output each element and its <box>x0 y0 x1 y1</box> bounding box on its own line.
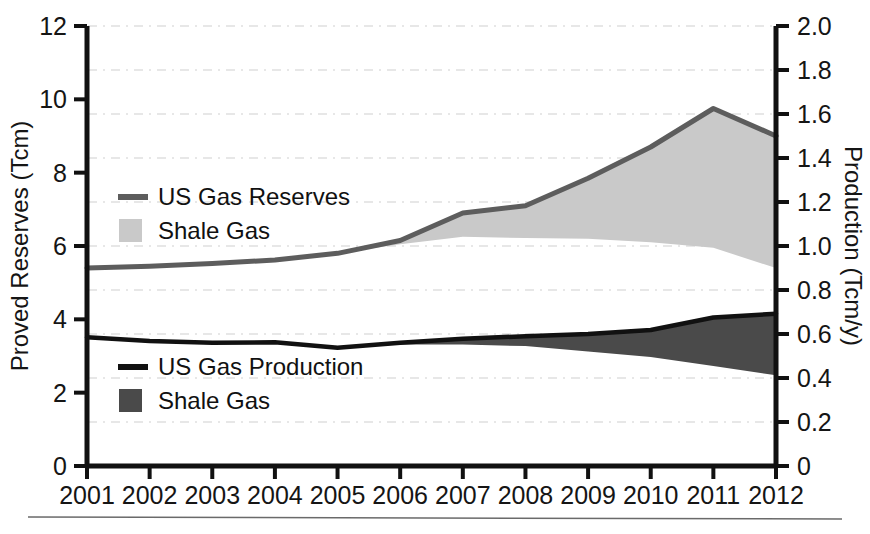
y-axis-right-tick-label: 0.6 <box>797 320 832 348</box>
y-axis-right-tick-label: 1.8 <box>797 56 832 84</box>
y-axis-left-tick-label: 0 <box>53 452 67 480</box>
y-axis-right-title: Production (Tcm/y) <box>840 146 867 346</box>
y-axis-right-tick-label: 0.8 <box>797 276 832 304</box>
x-axis-tick-label: 2005 <box>310 481 366 509</box>
legend-item-label: US Gas Reserves <box>158 183 350 210</box>
x-axis-tick-label: 2011 <box>686 481 740 509</box>
chart-figure: 1210864202.01.81.61.41.21.00.80.60.40.20… <box>0 0 870 534</box>
y-axis-right-tick-label: 1.6 <box>797 100 832 128</box>
x-axis-tick-label: 2006 <box>372 481 428 509</box>
x-axis-tick-label: 2002 <box>122 481 178 509</box>
y-axis-left-tick-label: 4 <box>53 305 67 333</box>
x-axis-tick-label: 2003 <box>184 481 240 509</box>
y-axis-left-title: Proved Reserves (Tcm) <box>6 121 33 372</box>
x-axis-tick-label: 2012 <box>748 481 804 509</box>
x-axis-tick-label: 2010 <box>623 481 679 509</box>
legend-swatch-marker <box>119 219 142 242</box>
legend-item: Shale Gas <box>119 387 270 414</box>
y-axis-left-tick-label: 6 <box>53 232 67 260</box>
x-axis-tick-label: 2007 <box>435 481 491 509</box>
y-axis-right-tick-label: 0.2 <box>797 408 832 436</box>
legend-item: Shale Gas <box>119 217 270 244</box>
x-axis-tick-label: 2009 <box>560 481 616 509</box>
legend-item-label: Shale Gas <box>158 387 270 414</box>
y-axis-right-tick-label: 0.4 <box>797 364 832 392</box>
x-axis-tick-label: 2004 <box>247 481 303 509</box>
y-axis-right-tick-label: 1.2 <box>797 188 832 216</box>
y-axis-right-tick-label: 1.4 <box>797 144 832 172</box>
legend-item-label: Shale Gas <box>158 217 270 244</box>
y-axis-left-tick-label: 2 <box>53 379 67 407</box>
legend-swatch-marker <box>119 389 142 412</box>
x-axis-tick-label: 2001 <box>59 481 115 509</box>
gas-reserves-production-chart: 1210864202.01.81.61.41.21.00.80.60.40.20… <box>0 0 870 534</box>
legend-item-label: US Gas Production <box>158 353 363 380</box>
y-axis-left-tick-label: 10 <box>39 85 67 113</box>
x-axis-tick-label: 2008 <box>498 481 554 509</box>
y-axis-left-tick-label: 8 <box>53 159 67 187</box>
y-axis-right-tick-label: 1.0 <box>797 232 832 260</box>
y-axis-right-tick-label: 2.0 <box>797 12 832 40</box>
y-axis-right-tick-label: 0 <box>797 452 811 480</box>
y-axis-left-tick-label: 12 <box>39 12 67 40</box>
